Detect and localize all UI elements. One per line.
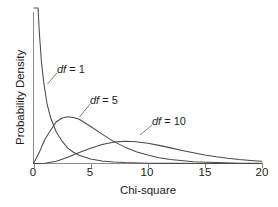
df-value-10: = 10 xyxy=(161,115,186,127)
axes-group xyxy=(34,12,263,164)
leader-line-df10 xyxy=(140,125,152,135)
leader-line-df5 xyxy=(80,104,91,117)
df-symbol-10: df xyxy=(152,115,161,127)
curve-df-1 xyxy=(34,8,262,163)
series-annotation-df1: df = 1 xyxy=(57,63,85,75)
series-curves xyxy=(34,8,263,164)
x-tick-label-20: 20 xyxy=(245,166,278,179)
df-symbol-1: df xyxy=(57,63,66,75)
x-tick-label-5: 5 xyxy=(73,166,107,179)
x-axis-title: Chi-square xyxy=(108,184,188,197)
df-symbol-5: df xyxy=(90,94,99,106)
x-tick-label-0: 0 xyxy=(16,166,50,179)
curve-df-5 xyxy=(34,117,263,164)
y-axis-title: Probability Density xyxy=(14,50,27,145)
chi-square-distribution-chart: 0 5 10 15 20 Chi-square Probability Dens… xyxy=(0,0,278,207)
df-value-5: = 5 xyxy=(99,94,118,106)
x-tick-label-10: 10 xyxy=(130,166,164,179)
leader-line-df1 xyxy=(48,73,58,84)
series-annotation-df5: df = 5 xyxy=(90,94,118,106)
df-value-1: = 1 xyxy=(66,63,85,75)
x-tick-label-15: 15 xyxy=(188,166,222,179)
series-annotation-df10: df = 10 xyxy=(152,115,186,127)
curve-df-10 xyxy=(34,141,263,163)
